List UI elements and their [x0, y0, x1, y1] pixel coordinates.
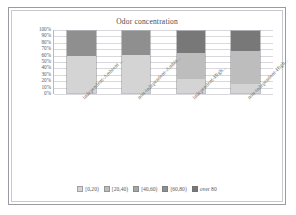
legend-label: [40,60): [141, 186, 157, 192]
bar-segment[interactable]: [231, 31, 260, 51]
x-axis-label-slot: independent-Ambient ...: [53, 94, 108, 172]
legend-item[interactable]: over 80: [192, 186, 217, 192]
bar-segment[interactable]: [177, 31, 206, 53]
plot-area: [53, 30, 273, 94]
y-axis: 100%90%80%70%60%50%40%30%20%10%0%: [25, 30, 51, 94]
legend-label: over 80: [200, 186, 217, 192]
bar-segment[interactable]: [122, 31, 151, 55]
x-axis-label-slot: non-independent-Ambie...: [108, 94, 163, 172]
y-axis-tick-label: 0%: [44, 91, 51, 96]
x-axis-labels: independent-Ambient ...non-independent-A…: [53, 94, 273, 172]
legend-item[interactable]: [20,40): [104, 186, 128, 192]
bar-segment[interactable]: [231, 51, 260, 84]
bar-segment[interactable]: [67, 31, 96, 56]
legend-swatch-icon: [192, 186, 198, 192]
legend-label: [0,20): [85, 186, 99, 192]
legend-label: [60,80): [170, 186, 186, 192]
chart-frame: Odor concentration 100%90%80%70%60%50%40…: [8, 7, 286, 205]
legend-swatch-icon: [133, 186, 139, 192]
x-axis-label-slot: non-independent-High...: [218, 94, 273, 172]
bars-layer: [54, 30, 273, 94]
x-axis-label-slot: independent-High...: [163, 94, 218, 172]
chart-title: Odor concentration: [9, 17, 285, 26]
legend-item[interactable]: [40,60): [133, 186, 157, 192]
legend-item[interactable]: [60,80): [162, 186, 186, 192]
legend-item[interactable]: [0,20): [77, 186, 99, 192]
legend-swatch-icon: [104, 186, 110, 192]
legend-swatch-icon: [162, 186, 168, 192]
legend-swatch-icon: [77, 186, 83, 192]
chart-legend: [0,20)[20,40)[40,60)[60,80)over 80: [9, 186, 285, 192]
legend-label: [20,40): [112, 186, 128, 192]
